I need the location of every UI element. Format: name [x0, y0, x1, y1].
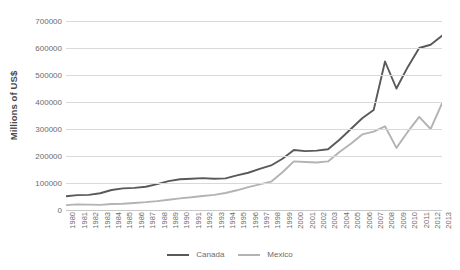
x-axis-tick-label: 2001 [309, 212, 317, 229]
line-chart: Millions of US$ 010000020000030000040000… [0, 0, 460, 270]
x-axis-tick-label: 1997 [263, 212, 271, 229]
x-axis-tick-label: 1992 [206, 212, 214, 229]
x-axis-tick-label: 2009 [400, 212, 408, 229]
gridline [66, 129, 442, 130]
x-axis-tick-label: 1985 [126, 212, 134, 229]
gridline [66, 210, 442, 211]
x-axis-tick-label: 1993 [218, 212, 226, 229]
x-axis-tick-label: 1986 [138, 212, 146, 229]
x-axis-tick-label: 1998 [274, 212, 282, 229]
x-axis-tick-label: 2003 [331, 212, 339, 229]
x-axis-tick-label: 1981 [81, 212, 89, 229]
x-axis-tick-label: 2005 [354, 212, 362, 229]
series-lines [66, 21, 442, 210]
x-axis-tick-label: 2012 [434, 212, 442, 229]
gridline [66, 102, 442, 103]
gridline [66, 48, 442, 49]
gridline [66, 21, 442, 22]
legend-swatch-icon [167, 254, 189, 256]
x-axis-tick-label: 2013 [445, 212, 453, 229]
x-axis-tick-label: 1983 [104, 212, 112, 229]
x-axis-tick-label: 1980 [69, 212, 77, 229]
y-axis-tick-label: 500000 [16, 71, 62, 80]
y-axis-tick-label: 100000 [16, 179, 62, 188]
gridline [66, 156, 442, 157]
y-axis-tick-label: 600000 [16, 44, 62, 53]
x-axis-tick-label: 1994 [229, 212, 237, 229]
x-axis-tick-label: 2007 [377, 212, 385, 229]
x-axis-tick-label: 2000 [297, 212, 305, 229]
x-axis-tick-label: 2004 [343, 212, 351, 229]
x-axis-tick-label: 1989 [172, 212, 180, 229]
x-axis-tick-label: 2008 [388, 212, 396, 229]
legend-label: Canada [196, 250, 224, 259]
series-line-canada [66, 36, 442, 196]
legend-swatch-icon [238, 254, 260, 256]
y-axis-tick-label: 700000 [16, 17, 62, 26]
y-axis-tick-label: 200000 [16, 152, 62, 161]
y-axis-tick-label: 0 [16, 206, 62, 215]
y-axis-tick-label: 300000 [16, 125, 62, 134]
x-axis-tick-label: 1995 [240, 212, 248, 229]
x-axis-tick-label: 1990 [183, 212, 191, 229]
x-axis-tick-label: 1984 [115, 212, 123, 229]
gridline [66, 75, 442, 76]
x-axis-tick-label: 2006 [366, 212, 374, 229]
x-axis-tick-label: 1991 [195, 212, 203, 229]
x-axis-tick-label: 1999 [286, 212, 294, 229]
plot-area [66, 21, 442, 210]
x-axis-tick-label: 2002 [320, 212, 328, 229]
series-line-mexico [66, 103, 442, 205]
legend-item-canada[interactable]: Canada [167, 250, 224, 259]
y-axis-tick-labels: 0100000200000300000400000500000600000700… [16, 0, 62, 270]
gridline [66, 183, 442, 184]
x-axis-tick-label: 2011 [423, 212, 431, 228]
y-axis-tick-label: 400000 [16, 98, 62, 107]
chart-legend: CanadaMexico [0, 250, 460, 259]
x-axis-tick-label: 2010 [411, 212, 419, 229]
legend-item-mexico[interactable]: Mexico [238, 250, 292, 259]
x-axis-tick-label: 1996 [252, 212, 260, 229]
x-axis-tick-label: 1988 [161, 212, 169, 229]
legend-label: Mexico [267, 250, 292, 259]
x-axis-tick-label: 1987 [149, 212, 157, 229]
x-axis-tick-label: 1982 [92, 212, 100, 229]
